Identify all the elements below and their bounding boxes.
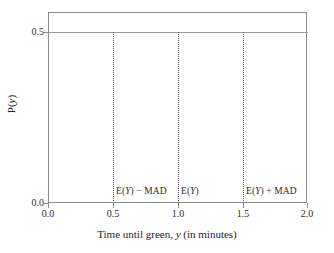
reference-label-e-minus-mad: E(Y) − MAD: [116, 186, 167, 196]
y-axis-title-var: y: [5, 99, 17, 104]
reference-line-e-minus-mad: [113, 32, 114, 203]
y-tick-label-0.5: 0.5: [18, 26, 44, 37]
x-axis-title-pre: Time until green,: [97, 228, 175, 240]
x-tick-label-0.0: 0.0: [28, 208, 68, 219]
ref-label-post-1: ) − MAD: [131, 186, 167, 196]
ref-label-post-2: ): [196, 186, 199, 196]
y-tick-mark-0.5: [44, 32, 49, 33]
reference-label-e: E(Y): [181, 186, 199, 196]
ref-label-post-3: ) + MAD: [261, 186, 297, 196]
ref-label-pre-2: E(: [181, 186, 190, 196]
x-tick-label-2.0: 2.0: [287, 208, 327, 219]
y-axis-title-pre: P(: [5, 103, 17, 113]
reference-line-e-plus-mad: [243, 32, 244, 203]
reference-label-e-plus-mad: E(Y) + MAD: [246, 186, 297, 196]
y-axis-title: P(y): [5, 69, 17, 139]
reference-line-e: [178, 32, 179, 203]
y-tick-label-0.0: 0.0: [18, 197, 44, 208]
x-axis-title-post: (in minutes): [181, 228, 237, 240]
chart-figure: E(Y) − MAD E(Y) E(Y) + MAD 0.5 0.0 0.0 0…: [0, 0, 334, 253]
y-axis-title-post: ): [5, 95, 17, 99]
x-axis-title: Time until green, y (in minutes): [0, 228, 334, 240]
ref-label-pre-3: E(: [246, 186, 255, 196]
ref-label-pre-1: E(: [116, 186, 125, 196]
x-tick-label-1.5: 1.5: [223, 208, 263, 219]
x-tick-label-1.0: 1.0: [158, 208, 198, 219]
x-tick-label-0.5: 0.5: [93, 208, 133, 219]
